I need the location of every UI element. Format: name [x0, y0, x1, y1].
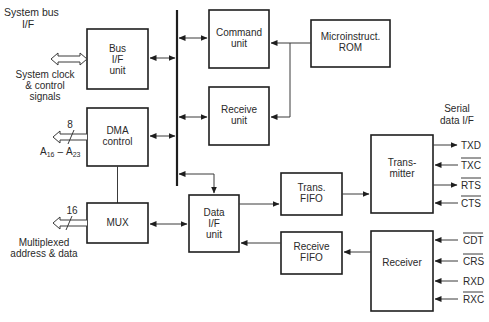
svg-text:I/F: I/F — [112, 54, 124, 65]
mux-bus-width: 16 — [66, 205, 78, 216]
system-bus-if-label: System bus I/F — [4, 6, 59, 30]
block-data-if-unit: Data I/F unit — [189, 195, 239, 252]
svg-text:I/F: I/F — [22, 18, 34, 30]
signal-cts: CTS — [461, 198, 481, 209]
svg-text:Serial: Serial — [444, 103, 470, 114]
svg-text:unit: unit — [109, 65, 125, 76]
signal-rts: RTS — [461, 180, 481, 191]
mux-output-arrow — [53, 216, 87, 230]
block-trans-fifo: Trans. FIFO — [281, 173, 342, 215]
rom-receive-link — [271, 43, 290, 117]
svg-text:I/F: I/F — [208, 218, 220, 229]
receiver-signals: CDT CRS RXD RXC — [435, 233, 484, 305]
block-transmitter: Trans- mitter — [371, 135, 433, 213]
block-microinstruct-rom: Microinstruct. ROM — [311, 20, 390, 67]
block-receiver: Receiver — [371, 231, 433, 311]
block-mux: MUX — [87, 203, 148, 243]
svg-text:System clock: System clock — [16, 69, 76, 80]
serial-controller-block-diagram: System bus I/F Serial data I/F Bus I/F u… — [0, 0, 489, 322]
svg-text:System bus: System bus — [4, 6, 59, 18]
block-receive-fifo: Receive FIFO — [281, 232, 342, 274]
address-range-label: A16–A23 — [40, 146, 81, 158]
svg-text:signals: signals — [29, 91, 60, 102]
system-bus-double-arrow — [51, 53, 87, 65]
signal-rxc: RXC — [463, 294, 484, 305]
svg-text:mitter: mitter — [390, 168, 416, 179]
svg-text:MUX: MUX — [106, 217, 129, 228]
svg-text:unit: unit — [231, 38, 247, 49]
svg-text:Microinstruct.: Microinstruct. — [321, 31, 380, 42]
svg-text:control: control — [102, 136, 132, 147]
svg-text:unit: unit — [206, 229, 222, 240]
signal-txd: TXD — [461, 140, 481, 151]
svg-text:Trans.: Trans. — [298, 182, 326, 193]
svg-text:FIFO: FIFO — [300, 252, 323, 263]
transmitter-signals: TXD TXC RTS CTS — [433, 140, 481, 209]
system-clock-label: System clock & control signals — [16, 69, 76, 102]
block-dma-control: DMA control — [87, 108, 148, 166]
signal-crs: CRS — [463, 256, 484, 267]
svg-text:& control: & control — [25, 80, 64, 91]
svg-text:address & data: address & data — [10, 248, 78, 259]
signal-rxd: RXD — [463, 276, 484, 287]
svg-text:Trans-: Trans- — [388, 157, 417, 168]
signal-cdt: CDT — [463, 235, 484, 246]
svg-text:Receive: Receive — [221, 104, 258, 115]
svg-text:DMA: DMA — [106, 125, 129, 136]
svg-text:data I/F: data I/F — [440, 115, 474, 126]
svg-text:Receive: Receive — [293, 241, 330, 252]
dma-address-arrow — [53, 130, 87, 144]
svg-text:Receiver: Receiver — [382, 257, 422, 268]
svg-text:Data: Data — [203, 207, 225, 218]
block-command-unit: Command unit — [209, 10, 269, 68]
svg-text:ROM: ROM — [339, 42, 362, 53]
svg-text:FIFO: FIFO — [300, 193, 323, 204]
signal-txc: TXC — [461, 160, 481, 171]
bus-data-if-link — [179, 174, 214, 193]
svg-text:Command: Command — [216, 27, 262, 38]
serial-data-if-label: Serial data I/F — [440, 103, 474, 126]
block-receive-unit: Receive unit — [209, 87, 269, 145]
svg-text:unit: unit — [231, 115, 247, 126]
svg-text:Multiplexed: Multiplexed — [19, 237, 70, 248]
block-bus-if-unit: Bus I/F unit — [87, 29, 148, 89]
dma-bus-width: 8 — [67, 119, 73, 130]
multiplexed-label: Multiplexed address & data — [10, 237, 78, 259]
svg-text:Bus: Bus — [109, 43, 126, 54]
